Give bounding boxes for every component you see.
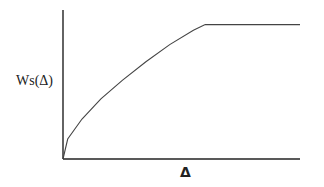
x-axis-label: Δ <box>180 164 191 180</box>
ws-curve <box>63 25 300 159</box>
chart <box>0 0 324 187</box>
y-axis-label: Ws(Δ) <box>16 73 53 89</box>
